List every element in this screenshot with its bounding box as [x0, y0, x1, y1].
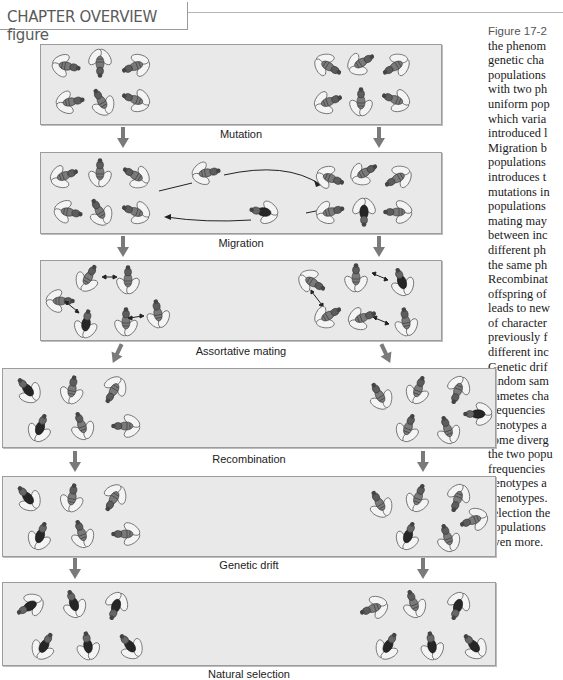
caption-line: Recombinat [488, 272, 563, 287]
fruit-fly-icon [459, 505, 489, 535]
caption-line: phenotypes. [488, 491, 563, 506]
caption-line: leads to new [488, 301, 563, 316]
caption-line: populations [488, 155, 563, 170]
panel-natural-selection [2, 582, 496, 666]
caption-line: different ph [488, 243, 563, 258]
fruit-fly-icon [417, 631, 447, 661]
fruit-fly-icon [121, 161, 151, 191]
fruit-fly-icon [349, 158, 379, 188]
fruit-fly-icon [121, 85, 151, 115]
header-title: CHAPTER OVERVIEW figure [7, 8, 187, 44]
fruit-fly-icon [387, 267, 417, 297]
caption-line: previously f [488, 330, 563, 345]
fruit-fly-icon [57, 483, 87, 513]
panel-mutation [40, 44, 442, 125]
fruit-fly-icon [373, 631, 403, 661]
caption-line: the phenom [488, 39, 563, 54]
fruit-fly-icon [99, 483, 129, 513]
caption-line: between inc [488, 228, 563, 243]
caption-line: genetic cha [488, 53, 563, 68]
fruit-fly-icon [55, 87, 85, 117]
stage-label-natural-selection: Natural selection [2, 668, 496, 680]
caption-line: gametes cha [488, 389, 563, 404]
fruit-fly-icon [313, 87, 343, 117]
caption-line: with two ph [488, 82, 563, 97]
fruit-fly-icon [315, 163, 345, 193]
caption-line: frequencies [488, 462, 563, 477]
caption-line: mating may [488, 214, 563, 229]
fruit-fly-icon [341, 263, 371, 293]
caption-line: random sam [488, 374, 563, 389]
caption-line: the two popu [488, 447, 563, 462]
chapter-overview-header: CHAPTER OVERVIEW figure [0, 0, 563, 32]
panel-genetic-drift [2, 476, 496, 557]
caption-line: populations [488, 68, 563, 83]
fruit-fly-icon [85, 158, 115, 188]
fruit-fly-icon [67, 411, 97, 441]
fruit-fly-icon [403, 483, 433, 513]
fruit-fly-icon [315, 197, 345, 227]
down-arrow-icon [373, 236, 385, 258]
migration-arrows [156, 163, 331, 228]
fruit-fly-icon [433, 523, 463, 553]
caption-line: some diverg [488, 433, 563, 448]
mating-arrows [41, 261, 443, 342]
figure-caption: Figure 17-2 the phenom genetic cha popul… [488, 24, 563, 549]
caption-line: selection the [488, 506, 563, 521]
fruit-fly-icon [121, 51, 151, 81]
panel-recombination [2, 368, 496, 448]
fruit-fly-icon [111, 411, 141, 441]
caption-line: the same ph [488, 258, 563, 273]
fruit-fly-icon [87, 87, 117, 117]
fruit-fly-icon [57, 375, 87, 405]
fruit-fly-icon [25, 413, 55, 443]
fruit-fly-icon [13, 483, 43, 513]
fruit-fly-icon [365, 489, 395, 519]
caption-line: Migration b [488, 141, 563, 156]
header-rule [188, 12, 563, 13]
fruit-fly-icon [25, 521, 55, 551]
fruit-fly-icon [101, 591, 131, 621]
fruit-fly-icon [349, 197, 379, 227]
fruit-fly-icon [383, 163, 413, 193]
fruit-fly-icon [346, 48, 376, 78]
down-arrow-icon [417, 451, 429, 473]
fruit-fly-icon [49, 161, 79, 191]
caption-line: genotypes a [488, 476, 563, 491]
fruit-fly-icon [347, 303, 377, 333]
caption-line: even more. [488, 535, 563, 550]
fruit-fly-icon [53, 197, 83, 227]
down-arrow-icon [69, 558, 81, 580]
caption-line: populations [488, 520, 563, 535]
fruit-fly-icon [313, 51, 343, 81]
header-tab: CHAPTER OVERVIEW figure [0, 2, 188, 30]
caption-line: which varia [488, 112, 563, 127]
fruit-fly-icon [399, 589, 429, 619]
fruit-fly-icon [383, 197, 413, 227]
fruit-fly-icon [13, 375, 43, 405]
fruit-fly-icon [443, 591, 473, 621]
panel-migration [40, 152, 442, 234]
fruit-fly-icon [85, 197, 115, 227]
caption-line: offspring of [488, 287, 563, 302]
caption-line: uniform pop [488, 97, 563, 112]
figure-number: Figure 17-2 [488, 24, 563, 39]
down-arrow-icon [69, 451, 81, 473]
panel-assortative-mating [40, 260, 442, 341]
down-right-arrow-icon [377, 343, 395, 365]
fruit-fly-icon [433, 415, 463, 445]
fruit-fly-icon [346, 87, 376, 117]
down-arrow-icon [373, 127, 385, 149]
fruit-fly-icon [393, 413, 423, 443]
fruit-fly-icon [391, 307, 421, 337]
caption-line: genotypes a [488, 418, 563, 433]
fruit-fly-icon [85, 48, 115, 78]
fruit-fly-icon [111, 519, 141, 549]
fruit-fly-icon [67, 519, 97, 549]
caption-line: introduced l [488, 126, 563, 141]
caption-line: frequencies [488, 403, 563, 418]
fruit-fly-icon [459, 631, 489, 661]
down-arrow-icon [117, 236, 129, 258]
fruit-fly-icon [121, 197, 151, 227]
down-arrow-icon [417, 558, 429, 580]
